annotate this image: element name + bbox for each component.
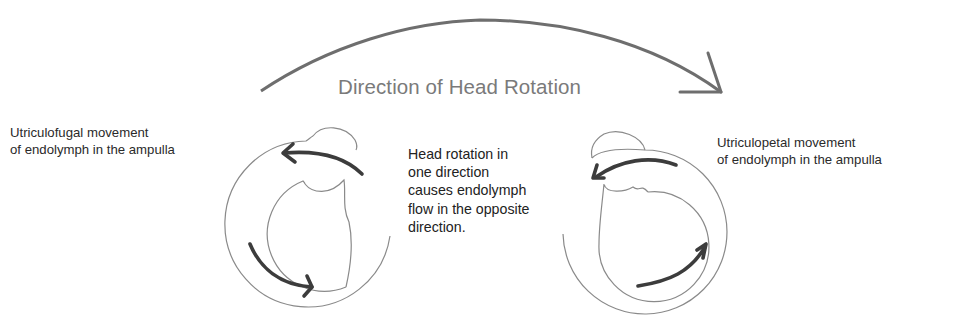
left-flow-arrows — [250, 144, 362, 296]
explanation-line: flow in the opposite — [408, 200, 529, 218]
label-line: of endolymph in the ampulla — [10, 141, 175, 158]
curved-arrow-icon — [596, 160, 676, 177]
curved-arrow-icon — [638, 247, 705, 286]
explanation-text: Head rotation in one direction causes en… — [408, 145, 529, 236]
curved-arrow-icon — [250, 244, 312, 287]
left-ampulla-lower — [305, 180, 351, 287]
right-ampulla-bulb — [592, 132, 646, 158]
label-line: Utriculopetal movement — [717, 134, 882, 151]
left-ampulla-bulb — [313, 128, 357, 150]
explanation-line: Head rotation in — [408, 145, 529, 163]
right-flow-arrows — [593, 160, 706, 286]
explanation-line: direction. — [408, 218, 529, 236]
right-ampulla-lower — [599, 184, 648, 244]
explanation-line: one direction — [408, 163, 529, 181]
explanation-line: causes endolymph — [408, 181, 529, 199]
left-ampulla-label: Utriculofugal movement of endolymph in t… — [10, 124, 175, 158]
right-ampulla-label: Utriculopetal movement of endolymph in t… — [717, 134, 882, 168]
diagram-title: Direction of Head Rotation — [338, 75, 581, 99]
right-canal-inner-wall — [599, 192, 709, 302]
left-canal-outer-wall — [225, 136, 390, 307]
label-line: Utriculofugal movement — [10, 124, 175, 141]
right-canal-outer-wall — [563, 149, 727, 314]
label-line: of endolymph in the ampulla — [717, 151, 882, 168]
